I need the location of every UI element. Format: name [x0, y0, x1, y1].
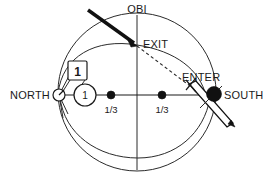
exit-arrow-head — [127, 38, 137, 47]
north-label: NORTH — [10, 89, 50, 101]
south-point-marker — [207, 87, 222, 102]
fraction-right-label: 1/3 — [155, 104, 168, 115]
box-marker-label: 1 — [74, 65, 81, 79]
third-right-dot — [158, 91, 166, 99]
enter-label: ENTER — [182, 71, 220, 83]
exit-label: EXIT — [143, 38, 168, 50]
diagram-container: 1 1 OBI EXIT ENTER NORTH SOUTH 1/3 1/3 — [0, 0, 270, 183]
south-label: SOUTH — [224, 89, 264, 101]
obi-label: OBI — [127, 3, 147, 15]
fraction-left-label: 1/3 — [104, 104, 117, 115]
third-left-dot — [107, 91, 115, 99]
obi-sphere-diagram: 1 1 OBI EXIT ENTER NORTH SOUTH 1/3 1/3 — [0, 0, 270, 183]
circle-marker-label: 1 — [82, 90, 88, 101]
